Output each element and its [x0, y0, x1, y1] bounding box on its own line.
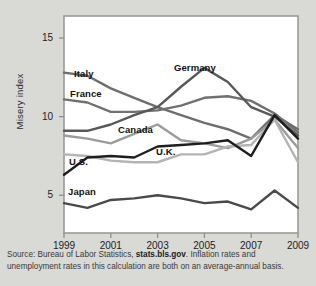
y-tick-label: 5	[31, 189, 53, 200]
misery-index-figure: Misery index 51015 199920012003200520072…	[0, 0, 316, 286]
series-label-uk: U.K.	[156, 146, 175, 157]
source-prefix: Source: Bureau of Labor Statistics,	[7, 250, 136, 259]
series-label-canada: Canada	[118, 124, 153, 135]
series-label-italy: Italy	[74, 68, 94, 79]
y-tick-label: 10	[31, 111, 53, 122]
y-tick-label: 15	[31, 32, 53, 43]
source-link: stats.bls.gov	[136, 250, 186, 259]
source-suffix: . Inflation rates and	[186, 250, 256, 259]
source-line2: unemployment rates in this calculation a…	[7, 262, 284, 271]
series-label-germany: Germany	[174, 62, 216, 73]
series-label-france: France	[70, 88, 102, 99]
source-caption: Source: Bureau of Labor Statistics, stat…	[7, 249, 309, 272]
series-label-us: U.S.	[69, 156, 88, 167]
series-label-japan: Japan	[68, 186, 96, 197]
y-axis-title: Misery index	[14, 47, 25, 157]
